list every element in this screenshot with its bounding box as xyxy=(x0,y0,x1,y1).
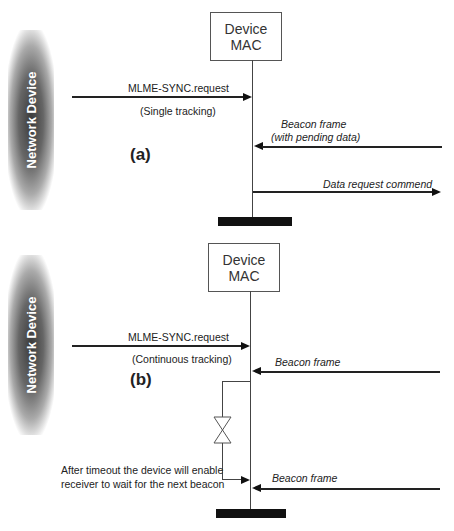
timeout-loop-upper xyxy=(222,381,223,417)
beacon-frame-arrow-b2 xyxy=(260,488,440,490)
device-mac-lifeline-a xyxy=(252,60,253,218)
device-mac-line2-a: MAC xyxy=(211,37,281,53)
device-mac-line2-b: MAC xyxy=(209,268,279,284)
network-device-label-a: Network Device xyxy=(24,72,39,169)
mlme-sync-request-label-a: MLME-SYNC.request xyxy=(128,82,229,94)
beacon-frame-label-b1: Beacon frame xyxy=(275,356,340,368)
lifeline-end-bar-b xyxy=(216,509,286,518)
device-mac-line1-a: Device xyxy=(211,21,281,37)
lifeline-end-bar-a xyxy=(218,217,292,226)
timeout-note-line2: receiver to wait for the next beacon xyxy=(61,478,224,490)
network-device-label-b: Network Device xyxy=(24,297,39,394)
mlme-sync-request-arrow-a xyxy=(72,96,244,98)
timeout-loop-bottom xyxy=(222,479,242,480)
network-device-actor-a: Network Device xyxy=(8,30,54,210)
timeout-loop-top xyxy=(222,381,250,382)
beacon-frame-label-a: Beacon frame xyxy=(281,118,346,130)
data-request-command-arrow xyxy=(253,191,433,193)
continuous-tracking-label: (Continuous tracking) xyxy=(132,353,232,365)
mlme-sync-request-label-b: MLME-SYNC.request xyxy=(128,331,229,343)
arrowhead-right-icon xyxy=(241,476,250,484)
beacon-frame-label-b2: Beacon frame xyxy=(272,472,337,484)
timeout-note-line1: After timeout the device will enable xyxy=(61,464,223,476)
device-mac-box-b: Device MAC xyxy=(208,243,280,292)
beacon-frame-arrow-a xyxy=(262,146,442,148)
hourglass-timeout-icon xyxy=(213,416,232,444)
mlme-sync-request-arrow-b xyxy=(72,345,242,347)
device-mac-box-a: Device MAC xyxy=(210,12,282,61)
network-device-actor-b: Network Device xyxy=(8,255,54,435)
single-tracking-label: (Single tracking) xyxy=(140,105,216,117)
arrowhead-right-icon xyxy=(241,342,250,350)
beacon-frame-arrow-b1 xyxy=(260,371,440,373)
arrowhead-right-icon xyxy=(432,188,441,196)
data-request-command-label: Data request commend xyxy=(323,178,432,190)
arrowhead-right-icon xyxy=(243,93,252,101)
pending-data-label: (with pending data) xyxy=(271,131,360,143)
device-mac-line1-b: Device xyxy=(209,252,279,268)
device-mac-lifeline-b xyxy=(250,291,251,509)
panel-label-b: (b) xyxy=(130,370,152,390)
panel-label-a: (a) xyxy=(130,145,151,165)
